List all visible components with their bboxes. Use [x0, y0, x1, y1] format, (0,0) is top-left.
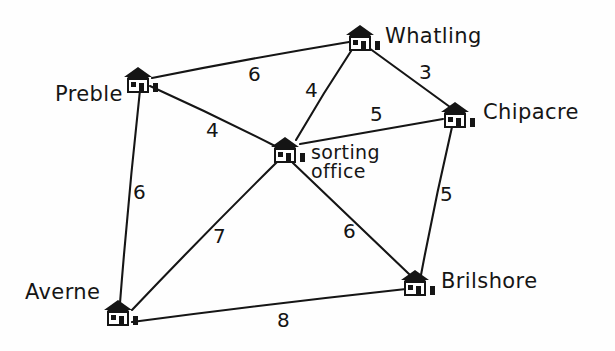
house-window: [131, 82, 136, 87]
house-window: [353, 40, 358, 45]
postbox-icon: [153, 83, 158, 92]
edge-weight-sorting-chipacre: 5: [370, 102, 383, 126]
graph-edge: [132, 162, 277, 310]
postbox-icon: [300, 153, 305, 162]
house-door: [361, 41, 366, 50]
house-window: [111, 315, 116, 320]
edge-weight-averne-brilshore: 8: [277, 308, 290, 332]
postbox-icon: [375, 41, 380, 50]
node-label-whatling: Whatling: [385, 26, 482, 47]
house-icon: [271, 137, 305, 162]
house-door: [286, 153, 291, 162]
node-label-line: Whatling: [385, 26, 482, 47]
edge-weight-whatling-sorting: 4: [305, 78, 318, 102]
graph-edge: [369, 48, 450, 107]
house-roof: [346, 25, 374, 37]
house-icon: [346, 25, 380, 50]
node-label-line: Brilshore: [441, 271, 538, 292]
edge-weight-preble-averne: 6: [133, 180, 146, 204]
house-roof: [271, 137, 299, 149]
postbox-icon: [430, 286, 435, 295]
house-door: [119, 316, 124, 325]
node-label-brilshore: Brilshore: [441, 271, 538, 292]
node-label-averne: Averne: [25, 282, 100, 303]
node-label-line: office: [311, 162, 380, 181]
node-label-sorting: sortingoffice: [311, 143, 380, 182]
edge-weight-sorting-brilshore: 6: [343, 219, 356, 243]
house-door: [456, 118, 461, 127]
node-label-preble: Preble: [55, 84, 123, 105]
house-door: [416, 286, 421, 295]
house-icon: [401, 270, 435, 295]
node-label-line: Preble: [55, 84, 123, 105]
postbox-icon: [133, 316, 138, 325]
edge-weight-preble-sorting: 4: [206, 118, 219, 142]
postbox-icon: [470, 118, 475, 127]
node-label-line: Chipacre: [483, 102, 579, 123]
diagram-canvas: PrebleWhatlingChipacresortingofficeAvern…: [0, 0, 615, 351]
node-label-chipacre: Chipacre: [483, 102, 579, 123]
house-roof: [124, 67, 152, 79]
house-door: [139, 83, 144, 92]
edge-weight-chipacre-brilshore: 5: [440, 182, 453, 206]
node-label-line: Averne: [25, 282, 100, 303]
house-icon: [441, 102, 475, 127]
edge-weight-averne-sorting: 7: [213, 224, 226, 248]
house-window: [448, 117, 453, 122]
graph-edge: [132, 289, 406, 322]
house-window: [278, 152, 283, 157]
house-window: [408, 285, 413, 290]
house-roof: [104, 300, 132, 312]
edge-weight-preble-whatling: 6: [248, 62, 261, 86]
edge-weight-whatling-chipacre: 3: [419, 60, 432, 84]
